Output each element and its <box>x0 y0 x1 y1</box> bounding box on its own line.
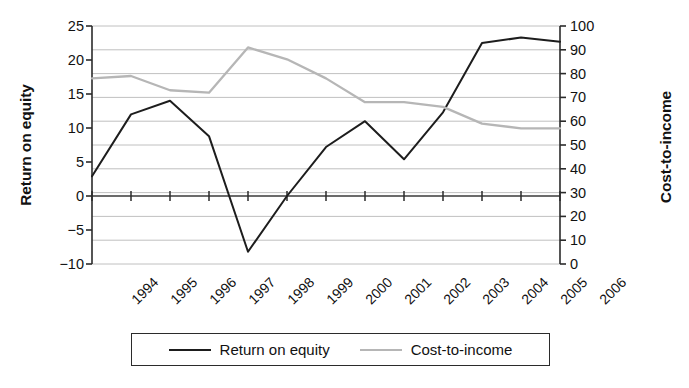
right-tick-label: 70 <box>570 90 616 105</box>
left-tick-label: 5 <box>38 155 84 170</box>
gridlines <box>92 26 560 264</box>
legend-swatch-cost-to-income <box>360 349 402 351</box>
left-tick-label: −5 <box>38 223 84 238</box>
right-axis-title: Cost-to-income <box>657 37 675 257</box>
chart-legend: Return on equity Cost-to-income <box>131 333 550 366</box>
legend-label-return-on-equity: Return on equity <box>220 341 330 358</box>
right-tick-label: 40 <box>570 162 616 177</box>
legend-item-return-on-equity: Return on equity <box>169 341 330 358</box>
left-tick-label: 20 <box>38 53 84 68</box>
right-tick-label: 0 <box>570 257 616 272</box>
right-tick-label: 90 <box>570 43 616 58</box>
left-tick-label: 15 <box>38 87 84 102</box>
right-tick-label: 60 <box>570 114 616 129</box>
right-tick-label: 100 <box>570 19 616 34</box>
legend-swatch-return-on-equity <box>169 349 211 351</box>
series-line-cost-to-income <box>92 47 560 128</box>
left-axis-title: Return on equity <box>17 35 35 255</box>
left-tick-label: 0 <box>38 189 84 204</box>
right-tick-label: 30 <box>570 186 616 201</box>
left-tick-label: −10 <box>38 257 84 272</box>
chart-figure: Return on equity Cost-to-income 25201510… <box>0 0 689 388</box>
legend-item-cost-to-income: Cost-to-income <box>360 341 513 358</box>
legend-label-cost-to-income: Cost-to-income <box>411 341 513 358</box>
left-tick-label: 25 <box>38 19 84 34</box>
right-tick-label: 50 <box>570 138 616 153</box>
right-tick-label: 80 <box>570 67 616 82</box>
right-tick-label: 20 <box>570 209 616 224</box>
left-tick-label: 10 <box>38 121 84 136</box>
right-tick-label: 10 <box>570 233 616 248</box>
